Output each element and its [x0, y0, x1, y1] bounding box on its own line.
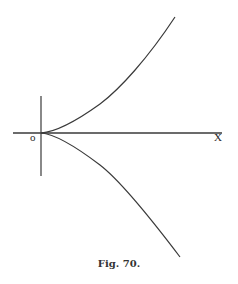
figure-caption: Fig. 70. — [0, 258, 238, 269]
origin-label: o — [30, 131, 36, 143]
x-axis-label: X — [214, 131, 222, 143]
lower-branch-curve — [41, 133, 180, 257]
upper-branch-curve — [41, 17, 175, 133]
figure-canvas: o X — [0, 0, 238, 284]
